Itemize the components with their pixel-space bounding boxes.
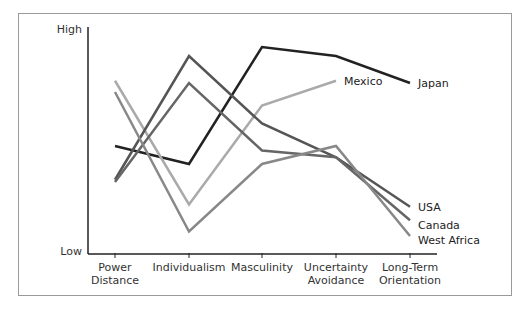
x-tick-label: Masculinity xyxy=(231,261,293,274)
x-tick-label: Uncertainty xyxy=(304,261,369,274)
x-tick-label: Avoidance xyxy=(308,274,365,287)
x-tick-label: Long-Term xyxy=(382,261,438,274)
x-tick-label: Distance xyxy=(91,274,139,287)
line-chart: HighLowPowerDistanceIndividualismMasculi… xyxy=(0,0,524,309)
series-label-usa: USA xyxy=(418,201,441,214)
series-line-west-africa xyxy=(115,92,410,236)
series-label-mexico: Mexico xyxy=(344,75,383,88)
series-label-canada: Canada xyxy=(418,219,460,232)
series-label-west-africa: West Africa xyxy=(418,234,480,247)
y-tick-low: Low xyxy=(60,245,82,258)
x-tick-label: Power xyxy=(98,261,132,274)
x-tick-label: Individualism xyxy=(152,261,225,274)
x-tick-label: Orientation xyxy=(379,274,441,287)
series-label-japan: Japan xyxy=(417,77,449,90)
y-tick-high: High xyxy=(57,23,82,36)
